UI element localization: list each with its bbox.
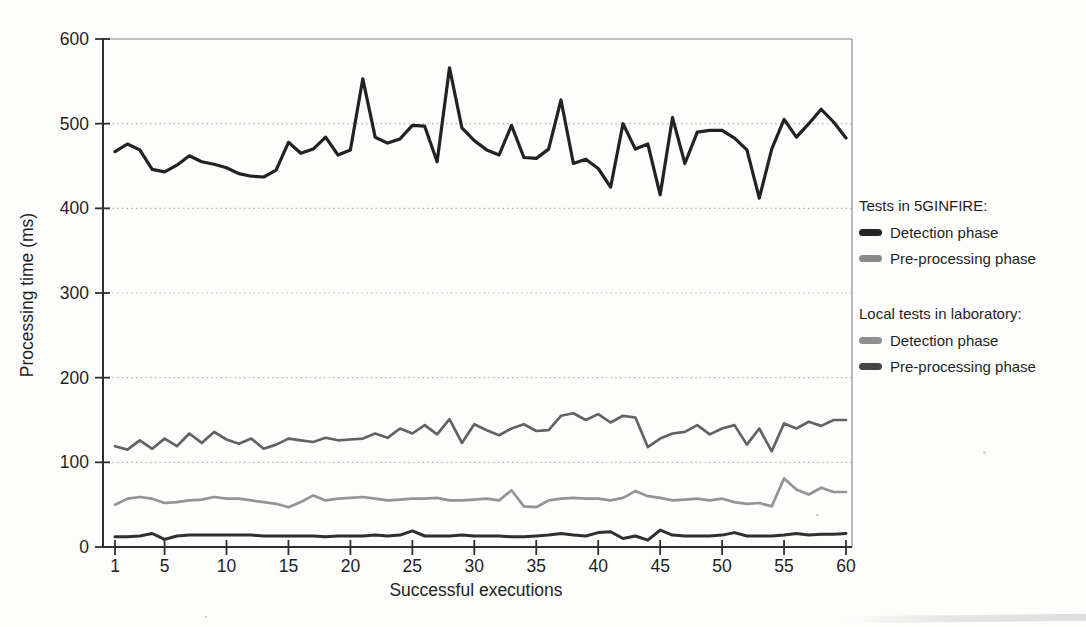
legend-item-label: Pre-processing phase	[890, 358, 1036, 375]
y-tick-label: 200	[60, 368, 89, 388]
legend: Tests in 5GINFIRE:Detection phasePre-pro…	[859, 193, 1085, 379]
x-tick-label: 35	[527, 556, 546, 576]
y-axis-label: Processing time (ms)	[17, 213, 37, 377]
legend-swatch	[859, 255, 882, 262]
legend-group-header: Local tests in laboratory:	[859, 301, 1085, 327]
x-axis-label: Successful executions	[389, 580, 562, 600]
legend-item: Detection phase	[859, 327, 1085, 353]
series-5ginfire-detection	[115, 68, 846, 198]
scan-speckle	[983, 451, 986, 454]
legend-group: Tests in 5GINFIRE:Detection phasePre-pro…	[859, 193, 1085, 271]
y-tick-label: 100	[60, 452, 89, 472]
scan-speckle	[205, 616, 207, 618]
figure: 0100200300400500600151015202530354045505…	[0, 0, 1086, 627]
legend-swatch	[859, 229, 882, 236]
x-tick-label: 40	[588, 556, 608, 576]
legend-swatch	[859, 337, 882, 344]
legend-item-label: Pre-processing phase	[890, 250, 1036, 267]
x-tick-label: 30	[465, 556, 485, 576]
series-local-preprocessing	[115, 530, 846, 540]
x-tick-label: 15	[279, 556, 298, 576]
y-tick-label: 300	[60, 283, 89, 303]
series-5ginfire-preprocessing	[115, 413, 846, 451]
x-tick-label: 60	[836, 556, 856, 576]
x-tick-label: 5	[160, 556, 170, 576]
legend-group: Local tests in laboratory:Detection phas…	[859, 301, 1085, 379]
legend-swatch	[859, 363, 882, 370]
x-tick-label: 55	[774, 556, 793, 576]
x-tick-label: 25	[403, 556, 422, 576]
y-tick-label: 0	[79, 537, 89, 557]
scan-speckle	[816, 514, 819, 516]
x-tick-label: 50	[712, 556, 732, 576]
y-tick-label: 500	[60, 114, 89, 134]
legend-item-label: Detection phase	[890, 332, 998, 349]
x-tick-label: 1	[110, 556, 120, 576]
series-local-detection	[115, 478, 846, 507]
y-tick-label: 400	[60, 198, 89, 218]
legend-item: Pre-processing phase	[859, 353, 1085, 379]
x-tick-label: 10	[217, 556, 237, 576]
legend-group-header: Tests in 5GINFIRE:	[859, 193, 1085, 219]
y-tick-label: 600	[60, 29, 89, 49]
x-tick-label: 45	[650, 556, 669, 576]
legend-item-label: Detection phase	[890, 224, 998, 241]
legend-item: Detection phase	[859, 219, 1085, 245]
legend-item: Pre-processing phase	[859, 245, 1085, 271]
x-tick-label: 20	[341, 556, 361, 576]
